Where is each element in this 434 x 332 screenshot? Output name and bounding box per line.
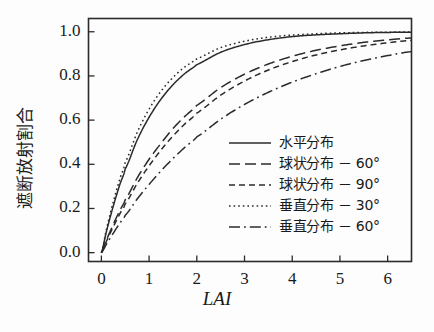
y-tick-label: 1.0 [33, 21, 81, 41]
legend-item: 球状分布 － 60° [228, 151, 380, 172]
y-tick-label: 0.2 [33, 197, 81, 217]
legend-line-sample-solid [228, 135, 272, 147]
x-axis-ticks [101, 256, 387, 262]
legend-label: 垂直分布 － 30° [279, 194, 380, 214]
x-tick-label: 6 [368, 269, 408, 289]
legend-label: 球状分布 － 90° [279, 173, 380, 193]
x-tick-label: 1 [129, 269, 169, 289]
legend-line-sample-dotted [228, 198, 272, 210]
legend-label: 水平分布 [279, 131, 334, 151]
legend-label: 球状分布 － 60° [279, 152, 380, 172]
y-tick-label: 0.8 [33, 65, 81, 85]
x-tick-label: 2 [177, 269, 217, 289]
x-tick-label: 3 [225, 269, 265, 289]
legend-item: 水平分布 [228, 130, 380, 151]
legend-line-sample-shortdash [228, 177, 272, 189]
legend-line-sample-dashdot [228, 219, 272, 231]
y-tick-label: 0.0 [33, 242, 81, 262]
x-tick-label: 5 [320, 269, 360, 289]
chart-legend: 水平分布球状分布 － 60°球状分布 － 90°垂直分布 － 30°垂直分布 －… [228, 130, 380, 235]
y-tick-label: 0.6 [33, 109, 81, 129]
legend-item: 垂直分布 － 60° [228, 214, 380, 235]
x-axis-label: LAI [0, 288, 434, 310]
chart-figure: 遮断放射割合 LAI 0123456 0.00.20.40.60.81.0 水平… [0, 0, 434, 332]
legend-label: 垂直分布 － 60° [279, 215, 380, 235]
x-tick-label: 4 [272, 269, 312, 289]
x-tick-label: 0 [81, 269, 121, 289]
legend-item: 垂直分布 － 30° [228, 193, 380, 214]
legend-line-sample-dashed [228, 156, 272, 168]
legend-item: 球状分布 － 90° [228, 172, 380, 193]
y-axis-ticks [89, 32, 95, 253]
y-tick-label: 0.4 [33, 153, 81, 173]
